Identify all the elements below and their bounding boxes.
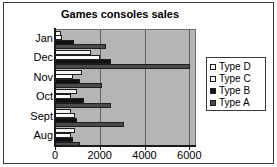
value-axis-line [54,28,56,147]
category-label-aug: Aug [33,129,53,141]
category-axis-line [55,145,196,147]
category-label-dec: Dec [33,51,53,63]
category-label-oct: Oct [36,90,53,102]
legend-label-type-c: Type C [219,74,251,84]
legend-label-type-b: Type B [219,86,250,96]
category-label-jan: Jan [35,32,53,44]
legend-item-type-d: Type D [210,61,263,73]
gridline-6000 [189,30,190,146]
category-label-nov: Nov [33,71,53,83]
bar-jan-type-a [55,44,106,49]
legend-label-type-d: Type D [219,62,251,72]
value-label-6000: 6000 [174,149,204,161]
legend-swatch-type-d [210,64,216,70]
bar-sept-type-a [55,122,124,127]
legend-swatch-type-b [210,88,216,94]
legend-item-type-a: Type A [210,97,263,109]
value-label-2000: 2000 [85,149,115,161]
legend-swatch-type-a [210,100,216,106]
legend-label-type-a: Type A [219,98,250,108]
plot-area [55,29,196,146]
legend-item-type-b: Type B [210,85,263,97]
gridline-4000 [145,30,146,146]
chart-screenshot: Games consoles sales AugSeptOctNovDecJan… [0,0,277,167]
value-label-0: 0 [40,149,70,161]
bar-nov-type-a [55,83,102,88]
bar-oct-type-a [55,103,111,108]
value-label-4000: 4000 [130,149,160,161]
legend-swatch-type-c [210,76,216,82]
legend-rows: Type DType CType BType A [210,61,263,109]
category-label-sept: Sept [30,110,53,122]
chart-legend: Type DType CType BType A [206,57,266,111]
legend-item-type-c: Type C [210,73,263,85]
bar-dec-type-a [55,64,190,69]
plot-inner [55,30,195,146]
chart-title: Games consoles sales [40,8,200,20]
